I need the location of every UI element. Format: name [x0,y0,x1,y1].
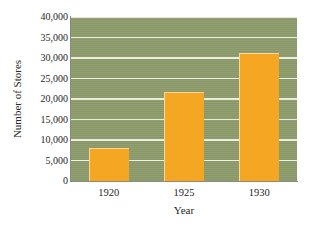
y-axis-tick-label: 15,000 [24,115,68,125]
x-axis-tick-label: 1925 [154,186,214,200]
bar [239,53,279,181]
bars-layer [71,17,297,181]
x-axis-tick-label: 1930 [229,186,289,200]
y-axis-line [70,16,71,182]
y-axis-tick-label: 35,000 [24,33,68,43]
x-axis-tick-labels: 192019251930 [71,186,297,202]
bar [89,148,129,181]
y-axis-tick-label: 0 [24,176,68,186]
y-axis-tick-labels: 05,00010,00015,00020,00025,00030,00035,0… [24,0,68,228]
bar-chart-figure: Number of Stores 05,00010,00015,00020,00… [0,0,312,228]
x-axis-tick-label: 1920 [79,186,139,200]
bar [164,92,204,181]
y-axis-tick-label: 40,000 [24,12,68,22]
x-axis-title: Year [71,203,297,217]
y-axis-tick-label: 10,000 [24,135,68,145]
y-axis-tick-label: 5,000 [24,156,68,166]
y-axis-title-label: Number of Stores [11,60,23,138]
x-axis-line [70,181,298,182]
y-axis-tick-label: 20,000 [24,94,68,104]
y-axis-tick-label: 25,000 [24,74,68,84]
plot-area [71,17,297,181]
y-axis-tick-label: 30,000 [24,53,68,63]
